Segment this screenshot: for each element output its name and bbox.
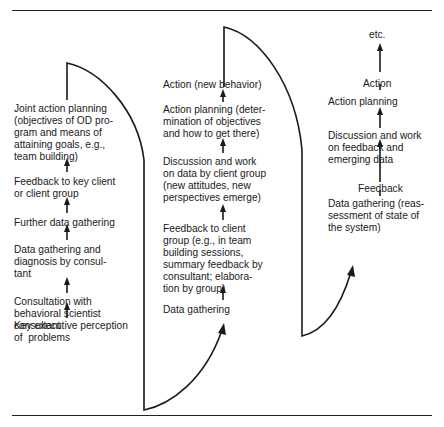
step-further-data-gathering: Further data gathering [14,217,115,229]
step-feedback-client-group: Feedback to client group (e.g., in team … [163,223,263,295]
step-discussion-work-data: Discussion and work on data by client gr… [163,156,266,204]
step-data-gathering-reassessment: Data gathering (reas- sessment of state … [328,198,424,234]
step-feedback-key-client: Feedback to key client or client group [14,176,115,200]
step-consultation: Consultation with behavioral scientist c… [14,296,101,332]
step-etc: etc. [369,29,385,41]
step-feedback-3: Feedback [358,183,403,195]
step-action-planning-3: Action planning [328,96,398,108]
step-discussion-feedback: Discussion and work on feedback and emer… [328,130,421,166]
step-action-planning-2: Action planning (deter- mination of obje… [163,104,266,140]
step-data-gathering-diagnosis: Data gathering and diagnosis by consul- … [14,244,106,280]
step-joint-action-planning: Joint action planning (objectives of OD … [14,103,113,163]
step-action-new-behavior: Action (new behavior) [163,79,262,91]
step-action-3: Action [363,78,391,90]
step-data-gathering-2: Data gathering [163,304,230,316]
